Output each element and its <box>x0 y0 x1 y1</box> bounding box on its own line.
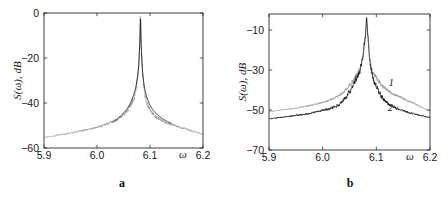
y-tick-label: −20 <box>21 52 39 64</box>
x-tick-label: 6.0 <box>315 151 330 163</box>
series-spectrum-2 <box>269 18 430 119</box>
y-axis-label: S(ω), dB <box>11 61 24 100</box>
y-tick-label: 0 <box>33 7 39 19</box>
panel-caption-a: a <box>102 176 142 191</box>
x-tick-label: 6.0 <box>90 149 105 161</box>
plot-area <box>44 16 203 138</box>
axes-frame <box>269 14 430 150</box>
plot-panel-a: 5.96.06.16.2−60−40−200ωS(ω), dB a <box>0 0 224 201</box>
panel-caption-b: b <box>330 176 370 191</box>
x-axis-label: ω <box>179 148 187 160</box>
x-tick-label: 6.2 <box>423 151 438 163</box>
series-spectrum-1 <box>269 17 430 112</box>
series-theoretical-lorentzian <box>113 19 171 123</box>
x-axis-label: ω <box>406 150 414 162</box>
spectrum-plot-b: 5.96.06.16.2−70−50−30−10ωS(ω), dB12 <box>224 0 448 201</box>
plot-area <box>269 17 430 119</box>
x-tick-label: 6.1 <box>369 151 384 163</box>
y-tick-label: −50 <box>246 104 264 116</box>
figure-container: 5.96.06.16.2−60−40−200ωS(ω), dB a 5.96.0… <box>0 0 448 201</box>
y-tick-label: −60 <box>21 142 39 154</box>
y-tick-label: −10 <box>246 24 264 36</box>
series-experimental-noisy-spectrum <box>44 16 203 138</box>
plot-panel-b: 5.96.06.16.2−70−50−30−10ωS(ω), dB12 b <box>224 0 448 201</box>
y-axis-label: S(ω), dB <box>236 63 249 102</box>
x-tick-label: 6.2 <box>196 149 211 161</box>
curve-label-1: 1 <box>389 77 394 88</box>
y-tick-label: −40 <box>21 97 39 109</box>
x-tick-label: 6.1 <box>143 149 158 161</box>
y-tick-label: −70 <box>246 144 264 156</box>
spectrum-plot-a: 5.96.06.16.2−60−40−200ωS(ω), dB <box>0 0 224 201</box>
y-tick-label: −30 <box>246 64 264 76</box>
curve-label-2: 2 <box>388 102 393 113</box>
